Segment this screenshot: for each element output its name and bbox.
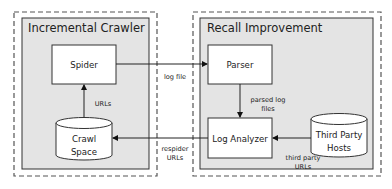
- svg-text:Third Party: Third Party: [315, 130, 363, 140]
- group-title: Recall Improvement: [207, 21, 323, 35]
- svg-text:Log Analyzer: Log Analyzer: [212, 134, 268, 144]
- svg-text:Spider: Spider: [70, 60, 98, 70]
- edge-label: files: [261, 105, 275, 113]
- node-crawl-space: Crawl Space: [56, 118, 112, 161]
- edge-label: URLs: [95, 100, 112, 108]
- edge-label: log file: [164, 73, 186, 81]
- node-third-party-hosts: Third Party Hosts: [311, 114, 367, 158]
- edge-label: parsed log: [251, 96, 286, 104]
- edge-label: URLs: [167, 154, 184, 162]
- svg-text:Space: Space: [71, 147, 97, 157]
- architecture-diagram: Incremental Crawler Recall Improvement S…: [0, 0, 392, 189]
- node-log-analyzer: Log Analyzer: [208, 118, 272, 158]
- group-title: Incremental Crawler: [28, 21, 145, 35]
- node-parser: Parser: [208, 45, 272, 84]
- node-spider: Spider: [52, 45, 116, 84]
- svg-text:Hosts: Hosts: [327, 143, 352, 153]
- edge-label: third party: [286, 154, 321, 162]
- svg-text:Parser: Parser: [227, 60, 254, 70]
- edge-label: URLs: [295, 163, 312, 171]
- svg-text:Crawl: Crawl: [72, 134, 96, 144]
- edge-label: respider: [161, 145, 188, 153]
